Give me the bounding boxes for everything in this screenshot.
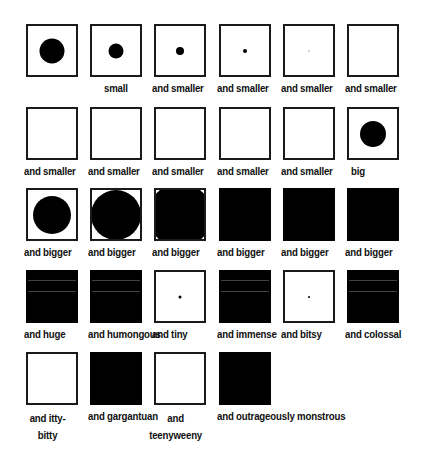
square-frame bbox=[26, 352, 78, 405]
circle-icon bbox=[176, 47, 184, 55]
cell-label: and smaller bbox=[152, 82, 204, 94]
circle-icon bbox=[243, 49, 247, 53]
circle-icon bbox=[308, 296, 310, 298]
square-frame bbox=[283, 270, 335, 323]
circle-icon bbox=[33, 196, 71, 234]
cell-label: and bigger bbox=[281, 246, 329, 258]
cell-label: small bbox=[104, 82, 128, 94]
circle-icon bbox=[360, 121, 386, 147]
cell-label: and bigger bbox=[152, 246, 200, 258]
cell-label: and humongous bbox=[88, 328, 161, 340]
square-frame bbox=[90, 24, 142, 77]
cell-label: and immense bbox=[217, 328, 277, 340]
square-frame bbox=[219, 107, 271, 160]
scanline bbox=[28, 280, 76, 281]
square-frame bbox=[219, 270, 271, 323]
square-frame bbox=[283, 24, 335, 77]
circle-icon bbox=[179, 295, 182, 298]
circle-icon bbox=[154, 188, 206, 241]
scanline bbox=[221, 280, 269, 281]
cell-label: and smaller bbox=[281, 82, 333, 94]
square-frame bbox=[26, 188, 78, 241]
circle-icon bbox=[109, 43, 124, 58]
square-frame bbox=[347, 107, 399, 160]
cell-label: and bigger bbox=[24, 246, 72, 258]
cell-label: and smaller bbox=[152, 165, 204, 177]
circle-icon bbox=[40, 38, 65, 63]
square-frame bbox=[154, 352, 206, 405]
circle-icon bbox=[91, 190, 141, 240]
cell-label: and smaller bbox=[217, 165, 269, 177]
square-frame bbox=[219, 188, 271, 241]
scanline bbox=[349, 280, 397, 281]
square-frame bbox=[26, 107, 78, 160]
scanline bbox=[92, 291, 140, 292]
cell-label: and bigger bbox=[88, 246, 136, 258]
square-frame bbox=[154, 107, 206, 160]
cell-label: and bitsy bbox=[281, 328, 322, 340]
cell-label: and tiny bbox=[152, 328, 188, 340]
square-frame bbox=[154, 188, 206, 241]
cell-label: and bigger bbox=[345, 246, 393, 258]
cell-label: and teenyweeny bbox=[148, 410, 203, 444]
cell-label: and smaller bbox=[345, 82, 397, 94]
scanline bbox=[349, 291, 397, 292]
cell-label: and smaller bbox=[88, 165, 140, 177]
square-frame bbox=[154, 270, 206, 323]
square-frame bbox=[90, 107, 142, 160]
square-frame bbox=[90, 352, 142, 405]
circle-icon bbox=[309, 50, 310, 51]
square-frame bbox=[347, 188, 399, 241]
scanline bbox=[221, 291, 269, 292]
cell-label: big bbox=[351, 165, 365, 177]
square-frame bbox=[90, 188, 142, 241]
cell-label: and bigger bbox=[217, 246, 265, 258]
square-frame bbox=[26, 24, 78, 77]
square-frame bbox=[90, 270, 142, 323]
cell-label: and smaller bbox=[281, 165, 333, 177]
square-frame bbox=[26, 270, 78, 323]
square-frame bbox=[219, 352, 271, 405]
square-frame bbox=[283, 188, 335, 241]
cell-label: and smaller bbox=[217, 82, 269, 94]
square-frame bbox=[219, 24, 271, 77]
scanline bbox=[28, 291, 76, 292]
square-frame bbox=[347, 24, 399, 77]
cell-label: and itty-bitty bbox=[20, 410, 75, 444]
cell-label: and colossal bbox=[345, 328, 401, 340]
cell-label: and smaller bbox=[24, 165, 76, 177]
square-frame bbox=[283, 107, 335, 160]
square-frame bbox=[154, 24, 206, 77]
cell-label: and huge bbox=[24, 328, 65, 340]
square-frame bbox=[347, 270, 399, 323]
cell-label: and outrageously monstrous bbox=[217, 410, 345, 422]
scanline bbox=[92, 280, 140, 281]
